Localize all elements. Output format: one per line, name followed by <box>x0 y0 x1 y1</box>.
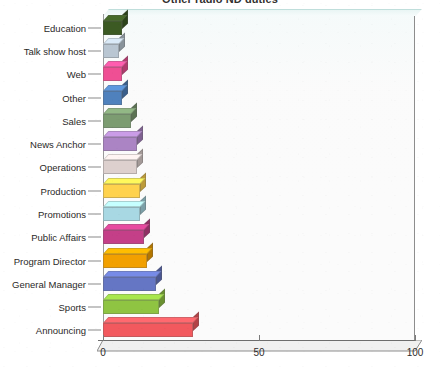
bar-front-face <box>103 67 122 81</box>
category-label-general-manager: General Manager <box>12 278 86 289</box>
bar-front-face <box>103 114 131 128</box>
bar-promotions <box>103 207 140 221</box>
category-label-sales: Sales <box>62 115 86 126</box>
category-label-web: Web <box>67 69 86 80</box>
category-tick <box>88 120 101 121</box>
category-tick <box>88 260 101 261</box>
bar-sports <box>103 300 159 314</box>
chart-title: Other radio ND duties <box>0 0 440 5</box>
category-tick <box>88 190 101 191</box>
category-tick <box>88 167 101 168</box>
category-tick <box>88 237 101 238</box>
category-label-news-anchor: News Anchor <box>30 139 86 150</box>
category-tick <box>88 50 101 51</box>
bar-front-face <box>103 254 147 268</box>
bar-news-anchor <box>103 137 137 151</box>
x-axis-tick <box>415 335 416 341</box>
category-label-sports: Sports <box>59 302 86 313</box>
bar-talk-show-host <box>103 44 119 58</box>
category-label-production: Production <box>41 185 86 196</box>
bar-front-face <box>103 230 144 244</box>
bar-operations <box>103 160 137 174</box>
category-tick <box>88 74 101 75</box>
category-label-announcing: Announcing <box>36 325 86 336</box>
category-tick <box>88 307 101 308</box>
category-label-talk-show-host: Talk show host <box>24 45 86 56</box>
x-axis-tick <box>259 335 260 341</box>
bar-announcing <box>103 323 193 337</box>
bar-front-face <box>103 137 137 151</box>
bar-web <box>103 67 122 81</box>
category-label-operations: Operations <box>40 162 86 173</box>
category-label-promotions: Promotions <box>38 208 86 219</box>
chart-container: Other radio ND duties EducationTalk show… <box>0 0 440 368</box>
y-axis-line <box>103 14 104 341</box>
bar-program-director <box>103 254 147 268</box>
x-axis-line <box>98 340 415 341</box>
bar-front-face <box>103 277 156 291</box>
bar-public-affairs <box>103 230 144 244</box>
category-tick <box>88 213 101 214</box>
category-tick <box>88 283 101 284</box>
x-axis-tick-label: 100 <box>407 347 424 358</box>
bar-front-face <box>103 21 122 35</box>
x-axis-tick-label: 0 <box>100 347 106 358</box>
category-label-other: Other <box>62 92 86 103</box>
bar-front-face <box>103 160 137 174</box>
category-label-public-affairs: Public Affairs <box>31 232 86 243</box>
category-label-program-director: Program Director <box>14 255 86 266</box>
plot-area <box>103 14 415 340</box>
category-tick <box>88 330 101 331</box>
bar-general-manager <box>103 277 156 291</box>
category-tick <box>88 144 101 145</box>
category-label-education: Education <box>44 22 86 33</box>
bar-sales <box>103 114 131 128</box>
bar-other <box>103 91 122 105</box>
bar-front-face <box>103 91 122 105</box>
bar-front-face <box>103 300 159 314</box>
bar-production <box>103 184 140 198</box>
category-tick <box>88 97 101 98</box>
x-axis-tick-label: 50 <box>253 347 264 358</box>
bar-front-face <box>103 207 140 221</box>
category-tick <box>88 27 101 28</box>
plot-background-wash <box>103 15 414 340</box>
bar-front-face <box>103 184 140 198</box>
bar-front-face <box>103 323 193 337</box>
bar-education <box>103 21 122 35</box>
x-axis-tick <box>103 335 104 341</box>
bar-front-face <box>103 44 119 58</box>
